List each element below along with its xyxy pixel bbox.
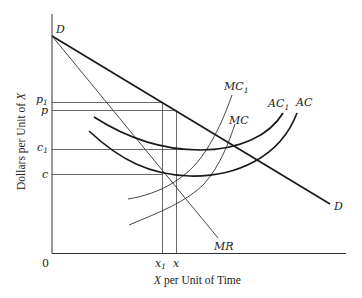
mc-label: MC (228, 114, 249, 127)
curve-labels: D D MR MC1 MC AC1 AC (55, 23, 343, 253)
mc1-label-sub: 1 (244, 86, 249, 95)
economics-diagram: D D MR MC1 MC AC1 AC p1 p c1 c x1 x 0 X … (0, 0, 362, 298)
y-axis-title: Dollars per Unit of X (15, 92, 28, 190)
ac1-label-sub: 1 (284, 103, 289, 112)
mc1-label: MC1 (223, 80, 248, 95)
y-tick-p: p (41, 104, 48, 117)
mc1-label-base: MC (223, 80, 244, 93)
x-tick-x1: x1 (155, 257, 166, 271)
demand-curve (52, 36, 330, 204)
axes (52, 14, 346, 254)
reference-lines (52, 103, 200, 254)
mr-label: MR (213, 240, 234, 253)
y-tick-c: c (42, 168, 48, 181)
demand-label-top: D (55, 23, 65, 36)
demand-label-bottom: D (333, 200, 343, 213)
y-tick-c1: c1 (37, 141, 48, 155)
origin-label: 0 (42, 257, 49, 270)
ac1-label: AC1 (267, 97, 289, 112)
ac-label: AC (295, 96, 313, 109)
x-axis-title: X per Unit of Time (153, 274, 241, 287)
x-tick-labels: x1 x 0 (42, 257, 180, 271)
x-tick-x: x (173, 257, 180, 270)
y-tick-labels: p1 p c1 c (36, 93, 48, 181)
ac1-label-base: AC (267, 97, 285, 110)
